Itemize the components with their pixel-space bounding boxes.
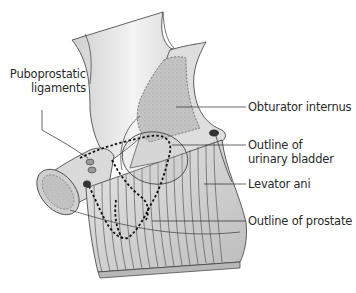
label-text: Levator ani (248, 177, 310, 191)
label-outline-of-prostate: Outline of prostate (248, 214, 352, 228)
label-text: Outline of prostate (248, 214, 352, 228)
label-puboprostatic-ligaments: Puboprostatic ligaments (2, 67, 86, 95)
opening-left (83, 181, 91, 188)
label-line: Outline of (248, 138, 334, 152)
label-urinary-bladder: Outline of urinary bladder (248, 138, 334, 166)
label-text: Obturator internus (248, 100, 351, 114)
label-levator-ani: Levator ani (248, 177, 310, 191)
label-line: urinary bladder (248, 152, 334, 166)
label-line: ligaments (2, 81, 86, 95)
label-line: Puboprostatic (2, 67, 86, 81)
anatomy-figure: Puboprostatic ligaments Obturator intern… (0, 0, 356, 293)
opening-right (209, 130, 219, 137)
label-obturator-internus: Obturator internus (248, 100, 351, 114)
